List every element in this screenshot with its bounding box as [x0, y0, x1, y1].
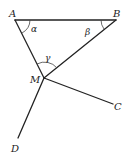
angle-alpha-arc: [22, 20, 30, 33]
segment-bm: [44, 20, 116, 78]
geometry-diagram: A B M C D α β γ: [0, 0, 130, 161]
segment-md: [18, 78, 44, 138]
point-label-a: A: [8, 8, 16, 19]
point-label-c: C: [114, 101, 122, 112]
angle-label-gamma: γ: [45, 53, 51, 63]
point-label-m: M: [29, 74, 41, 85]
angle-beta-arc: [101, 20, 104, 29]
point-label-d: D: [10, 143, 19, 154]
segment-am: [15, 20, 44, 78]
segment-mc: [44, 78, 113, 104]
angle-label-alpha: α: [31, 24, 37, 34]
angle-label-beta: β: [84, 27, 90, 37]
point-label-b: B: [112, 8, 120, 19]
